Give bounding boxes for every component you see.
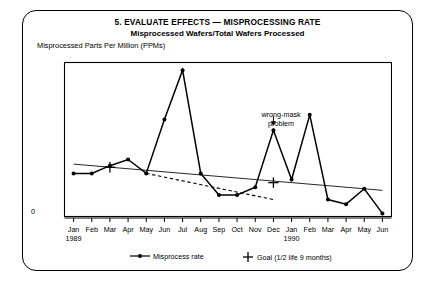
x-tick-label-17: Jun [367, 225, 397, 234]
page-title: 5. EVALUATE EFFECTS — MISPROCESSING RATE [23, 17, 412, 28]
x-axis-year-label-0: 1989 [59, 234, 89, 243]
annotation-line-1: wrong-mask [245, 110, 317, 119]
page-subtitle: Misprocessed Wafers/Total Wafers Process… [23, 28, 412, 39]
plot-svg [43, 53, 392, 217]
series-misprocess-rate [72, 68, 385, 215]
annotation-line-2: problem [245, 119, 317, 128]
legend-label-0: Misprocess rate [153, 252, 204, 261]
y-axis-label: Misprocessed Parts Per Million (PPMs) [37, 41, 165, 50]
legend-label-1: Goal (1/2 life 9 months) [257, 253, 332, 262]
chart-title-block: 5. EVALUATE EFFECTS — MISPROCESSING RATE… [23, 17, 412, 39]
series-goal-markers [105, 162, 279, 188]
plot-area [43, 53, 392, 217]
legend-line-dot-icon [129, 251, 151, 261]
series-goal-trendline [74, 164, 383, 190]
chart-legend: Misprocess rate Goal (1/2 life 9 months) [23, 251, 414, 269]
chart-card: 5. EVALUATE EFFECTS — MISPROCESSING RATE… [22, 10, 413, 271]
x-axis-year-label-1: 1990 [277, 234, 307, 243]
legend-item-misprocess-rate: Misprocess rate [129, 251, 204, 261]
legend-item-goal: Goal (1/2 life 9 months) [241, 251, 332, 263]
plot-frame [65, 63, 392, 217]
legend-plus-icon [241, 251, 255, 263]
y-tick-label-0: 0 [31, 207, 35, 216]
x-axis-labels: JanFebMarAprMayJunJulAugSepOctNovDecJanF… [23, 225, 414, 253]
annotation-wrong-mask: wrong-mask problem [245, 110, 317, 128]
